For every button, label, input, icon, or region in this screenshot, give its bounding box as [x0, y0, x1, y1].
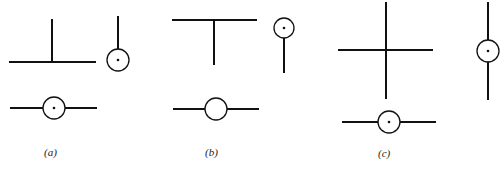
center-dot	[117, 59, 120, 62]
panel-c-label: (c)	[378, 147, 390, 159]
center-dot	[388, 121, 391, 124]
center-dot	[283, 27, 286, 30]
panel-a-label: (a)	[44, 146, 57, 158]
panel-a	[9, 16, 129, 119]
center-dot	[487, 50, 490, 53]
center-dot	[53, 107, 56, 110]
panel-c	[338, 2, 499, 133]
junction-diagram	[0, 0, 504, 169]
panel-b	[172, 18, 294, 120]
panel-b-label: (b)	[205, 146, 218, 158]
joint-circle	[205, 98, 227, 120]
